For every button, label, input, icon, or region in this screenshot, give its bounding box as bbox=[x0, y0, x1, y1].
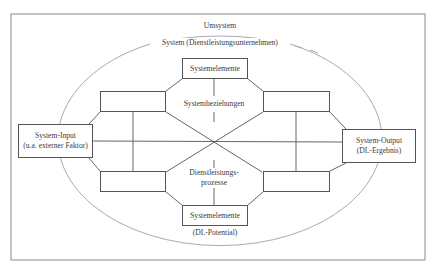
left-lower-box bbox=[100, 171, 166, 192]
system-output-sublabel: (DL-Ergebnis) bbox=[357, 146, 402, 156]
top-systemelemente-label: Systemelemente bbox=[190, 64, 240, 74]
top-systemelemente-box: Systemelemente bbox=[182, 58, 248, 79]
dl-potential-label: (DL-Potential) bbox=[185, 228, 245, 238]
bottom-systemelemente-label: Systemelemente bbox=[190, 211, 240, 221]
system-input-box: System-Input (u.a. externer Faktor) bbox=[18, 124, 93, 158]
bottom-systemelemente-box: Systemelemente bbox=[182, 205, 248, 226]
system-label: System (Dienstleistungsunternehmen) bbox=[150, 38, 290, 48]
systembeziehungen-label: Systembeziehungen bbox=[174, 99, 254, 109]
system-output-box: System-Output (DL-Ergebnis) bbox=[342, 129, 416, 163]
right-lower-box bbox=[263, 171, 330, 192]
dienstleistungsprozesse-label-line1: Dienstleistungs- bbox=[174, 168, 254, 178]
umsystem-label: Umsystem bbox=[190, 21, 250, 31]
dienstleistungsprozesse-label-line2: prozesse bbox=[184, 178, 244, 188]
system-input-sublabel: (u.a. externer Faktor) bbox=[23, 141, 88, 151]
system-output-label: System-Output bbox=[356, 136, 402, 146]
right-upper-box bbox=[263, 91, 330, 112]
system-input-label: System-Input bbox=[35, 131, 76, 141]
left-upper-box bbox=[100, 91, 166, 112]
